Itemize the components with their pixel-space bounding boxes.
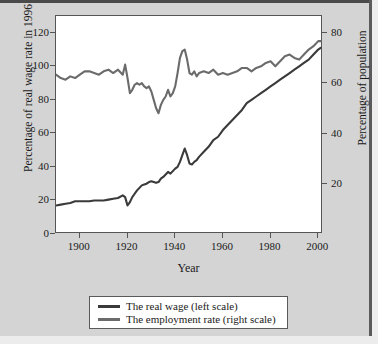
y-axis-right-title: Percentage of population [356, 0, 368, 188]
x-tick-label-1960: 1960 [202, 241, 242, 252]
y-tick-label-right-40: 40 [331, 128, 357, 139]
figure-container: Percentage of real wage rate in 1996 Per… [0, 0, 378, 344]
chart-lines [56, 16, 323, 234]
y-tick-label-left-0: 0 [23, 228, 49, 239]
x-tick-label-1900: 1900 [59, 241, 99, 252]
legend-label-employment-rate: The employment rate (right scale) [126, 314, 276, 325]
scan-edge-top [0, 0, 378, 3]
y-tick-label-left-40: 40 [23, 161, 49, 172]
legend-label-real-wage: The real wage (left scale) [126, 301, 238, 312]
legend-swatch-employment-rate [98, 318, 120, 321]
y-tick-label-left-20: 20 [23, 194, 49, 205]
x-tick-label-1940: 1940 [154, 241, 194, 252]
y-tick-label-left-100: 100 [23, 60, 49, 71]
y-tick-label-left-80: 80 [23, 94, 49, 105]
y-tick-label-left-120: 120 [23, 27, 49, 38]
chart-legend: The real wage (left scale) The employmen… [89, 296, 288, 329]
x-tick-label-1980: 1980 [250, 241, 290, 252]
x-tick-label-2000: 2000 [297, 241, 337, 252]
scan-margin-right [372, 0, 378, 344]
x-axis-title: Year [55, 261, 322, 276]
legend-item-real-wage: The real wage (left scale) [98, 300, 287, 313]
y-tick-mark-left-0 [50, 233, 55, 234]
series-line-employment-rate [56, 41, 321, 113]
legend-item-employment-rate: The employment rate (right scale) [98, 313, 287, 326]
legend-swatch-real-wage [98, 305, 120, 308]
y-tick-label-right-80: 80 [331, 27, 357, 38]
y-tick-label-right-20: 20 [331, 178, 357, 189]
plot-area [55, 15, 322, 233]
y-tick-label-right-60: 60 [331, 77, 357, 88]
y-tick-label-left-60: 60 [23, 127, 49, 138]
x-tick-label-1920: 1920 [107, 241, 147, 252]
scan-margin-bottom [0, 336, 378, 344]
